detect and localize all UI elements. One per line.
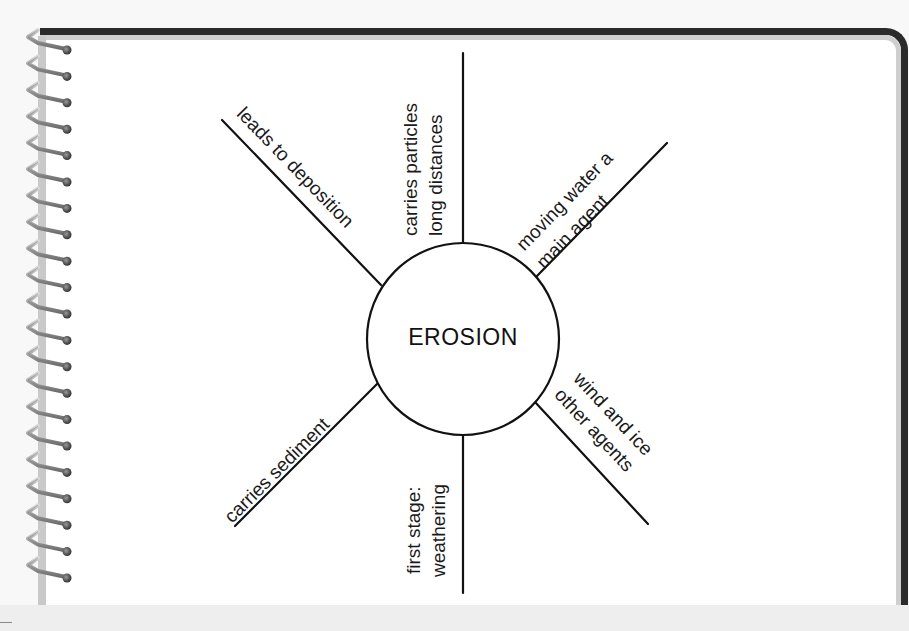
spoke-label-top-line2: long distances xyxy=(425,115,447,236)
center-topic-label: EROSION xyxy=(367,324,559,351)
spoke-label-bottom-line1: first stage: xyxy=(403,486,425,574)
notebook-page-stage: EROSION carries particles long distances… xyxy=(0,0,909,631)
spoke-label-top-line1: carries particles xyxy=(400,103,422,236)
spoke-upper-left xyxy=(222,120,381,285)
spoke-label-bottom-line2: weathering xyxy=(428,484,450,577)
spider-diagram xyxy=(0,0,909,631)
